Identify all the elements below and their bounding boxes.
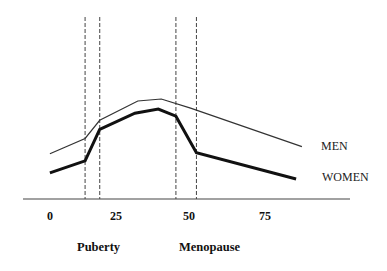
women-series-line: [50, 109, 296, 179]
chart-plot-area: [0, 0, 387, 271]
x-tick-50: 50: [183, 209, 195, 224]
x-tick-75: 75: [259, 209, 271, 224]
legend-women-label: WOMEN: [322, 170, 369, 185]
x-tick-25: 25: [110, 209, 122, 224]
legend-men-label: MEN: [321, 139, 348, 154]
x-tick-0: 0: [47, 209, 53, 224]
reference-lines: [85, 17, 196, 199]
menopause-annotation: Menopause: [179, 240, 240, 255]
puberty-annotation: Puberty: [77, 240, 120, 255]
